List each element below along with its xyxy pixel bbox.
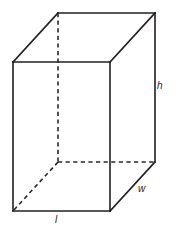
rectangular-prism-figure	[0, 0, 174, 236]
hidden-edge-bottom-left-diagonal	[13, 162, 58, 211]
edge-bottom-right-diagonal	[110, 162, 155, 211]
height-label: h	[157, 81, 163, 91]
edge-top-left-diagonal	[13, 13, 58, 62]
edge-top-right-diagonal	[110, 13, 155, 62]
prism-solid-edges	[13, 13, 155, 211]
prism-diagram-canvas: h w l	[0, 0, 174, 236]
width-label: w	[138, 184, 145, 194]
length-label: l	[55, 215, 57, 225]
prism-hidden-edges	[13, 13, 155, 211]
